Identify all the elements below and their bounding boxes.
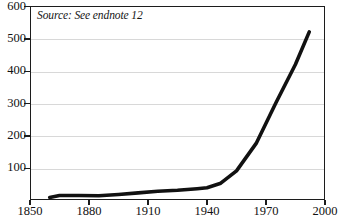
y-axis-tick [24, 135, 30, 136]
x-axis-tick [29, 200, 30, 205]
x-axis-label: 1940 [195, 205, 220, 218]
x-axis-tick [324, 200, 325, 205]
y-axis-tick [24, 168, 30, 169]
x-axis-label: 2000 [313, 205, 338, 218]
x-axis-label: 1910 [136, 205, 161, 218]
x-axis-label: 1850 [18, 205, 43, 218]
data-series-line [30, 6, 325, 200]
line-chart: Source: See endnote 12 10020030040050060… [0, 0, 338, 224]
x-axis-tick [147, 200, 148, 205]
y-axis-tick [24, 6, 30, 7]
x-axis-label: 1880 [77, 205, 102, 218]
y-axis-tick [24, 103, 30, 104]
x-axis-tick [265, 200, 266, 205]
y-axis-tick [24, 38, 30, 39]
x-axis-tick [206, 200, 207, 205]
x-axis-tick [88, 200, 89, 205]
series-polyline [50, 32, 310, 198]
y-axis-tick [24, 71, 30, 72]
x-axis-label: 1970 [254, 205, 279, 218]
source-note: Source: See endnote 12 [37, 9, 143, 21]
